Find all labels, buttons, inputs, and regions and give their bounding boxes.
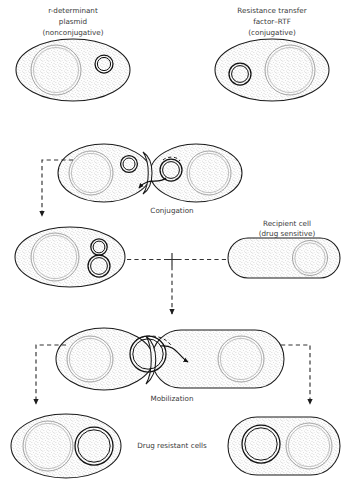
stage-conjugation-pair: Conjugation [58,144,242,215]
stage-recipient-cell: Recipient cell (drug sensitive) [228,219,340,278]
label-conjugation: Conjugation [150,206,193,215]
stage-donor-r-determinant: r-determinant plasmid (nonconjugative) [16,6,130,101]
stage-donor-rtf: Resistance transfer factor–RTF (conjugat… [215,6,329,101]
cell-membrane-right-oval [150,144,242,202]
cell-membrane-oval [16,39,130,101]
merge-junction [127,253,226,314]
cell-membrane-left-oval [56,328,153,390]
label-recipient-line2: (drug sensitive) [259,229,316,238]
label-rtf-line1: Resistance transfer [237,6,306,15]
stage-result-cell-rod [228,417,340,475]
stage-mobilization-pair: Mobilization [56,328,284,403]
label-mobilization: Mobilization [150,394,193,403]
label-recipient-line1: Recipient cell [263,219,311,228]
stage-donor-combined-R-plasmid [15,227,125,287]
cell-membrane-left-oval [58,144,151,202]
label-r-determinant-line3: (nonconjugative) [42,28,103,37]
label-rtf-line3: (conjugative) [248,28,296,37]
cell-membrane-oval [15,227,125,287]
label-r-determinant-line1: r-determinant [48,6,98,15]
flow-arrow-mobilization-to-result-right [281,345,310,404]
cell-membrane-rod [228,238,340,278]
cell-membrane-oval [11,414,121,478]
process-diagram-svg: r-determinant plasmid (nonconjugative) R… [0,0,344,488]
stage-result-cell-oval [11,414,121,478]
plus-sign-icon [166,253,179,266]
label-r-determinant-line2: plasmid [59,17,87,26]
label-drug-resistant-cells: Drug resistant cells [137,441,207,450]
label-rtf-line2: factor–RTF [253,17,291,26]
figure-canvas: r-determinant plasmid (nonconjugative) R… [0,0,344,488]
